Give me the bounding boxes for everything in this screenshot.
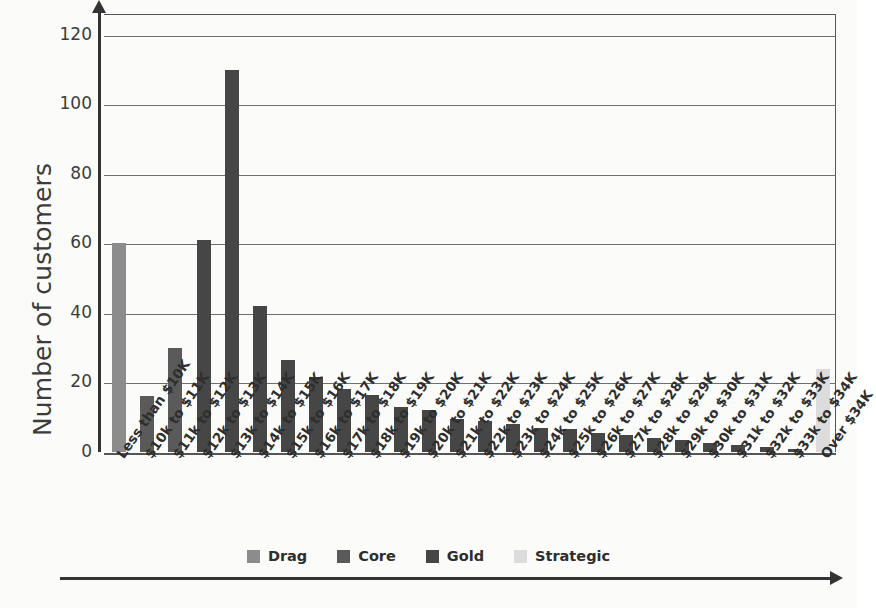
y-tick-label-20: 20 bbox=[48, 371, 92, 391]
y-axis-line bbox=[98, 10, 101, 452]
x-axis-arrow-icon bbox=[830, 571, 843, 585]
y-tick-label-80: 80 bbox=[48, 163, 92, 183]
legend-label: Strategic bbox=[535, 548, 610, 564]
legend-item-drag[interactable]: Drag bbox=[247, 548, 307, 564]
y-axis-arrow-icon bbox=[92, 0, 106, 13]
legend-swatch-icon bbox=[426, 550, 439, 563]
x-axis-line bbox=[60, 577, 832, 580]
legend-item-gold[interactable]: Gold bbox=[426, 548, 484, 564]
x-axis-tick-labels: Less than $10K$10k to $11K$11k to $12K$1… bbox=[104, 452, 844, 552]
legend-item-core[interactable]: Core bbox=[337, 548, 396, 564]
legend-label: Drag bbox=[268, 548, 307, 564]
legend-item-strategic[interactable]: Strategic bbox=[514, 548, 610, 564]
y-tick-label-40: 40 bbox=[48, 302, 92, 322]
chart-legend: DragCoreGoldStrategic bbox=[0, 548, 857, 564]
bar bbox=[112, 243, 126, 452]
legend-swatch-icon bbox=[337, 550, 350, 563]
legend-swatch-icon bbox=[247, 550, 260, 563]
legend-swatch-icon bbox=[514, 550, 527, 563]
y-tick-label-0: 0 bbox=[48, 441, 92, 461]
y-tick-label-120: 120 bbox=[48, 24, 92, 44]
legend-label: Core bbox=[358, 548, 396, 564]
legend-label: Gold bbox=[447, 548, 484, 564]
y-tick-label-60: 60 bbox=[48, 232, 92, 252]
y-tick-label-100: 100 bbox=[48, 93, 92, 113]
y-axis-tick-labels: 020406080100120 bbox=[40, 14, 92, 452]
